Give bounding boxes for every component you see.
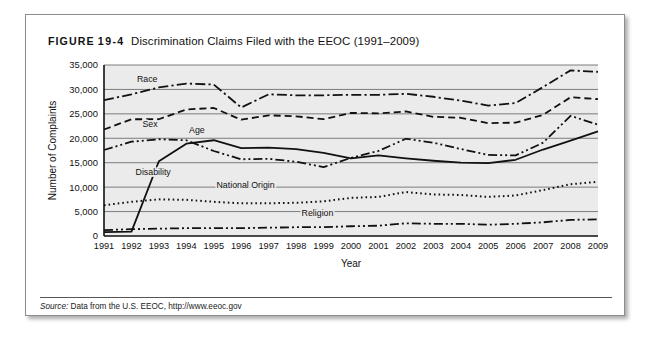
x-axis-tick-label: 2002 [396, 241, 416, 251]
x-axis-tick-label: 2006 [505, 241, 525, 251]
x-axis-tick-label: 2007 [533, 241, 553, 251]
x-axis-tick-label: 1994 [176, 241, 196, 251]
y-axis-tick-label: 25,000 [69, 108, 98, 119]
x-axis-tick-label: 1998 [286, 241, 306, 251]
x-axis-tick-label: 2004 [451, 241, 471, 251]
x-axis-tick-label: 1993 [149, 241, 169, 251]
x-axis-tick-label: 1991 [94, 241, 114, 251]
figure-caption: Discrimination Claims Filed with the EEO… [131, 35, 419, 47]
series-label-national-origin: National Origin [217, 180, 275, 190]
y-axis-tick-label: 5,000 [75, 206, 98, 217]
figure-plate: FIGURE 19-4 Discrimination Claims Filed … [25, 14, 625, 316]
series-label-race: Race [137, 74, 158, 84]
x-axis-tick-label: 2009 [588, 241, 608, 251]
series-label-age: Age [189, 125, 205, 135]
y-axis-tick-label: 10,000 [69, 182, 98, 193]
x-axis-tick-label: 1997 [258, 241, 278, 251]
y-axis-tick-label: 30,000 [69, 84, 98, 95]
y-axis-title: Number of Complaints [47, 101, 58, 200]
source-note: Source: Data from the U.S. EEOC, http://… [40, 302, 242, 311]
figure-label-number: 19-4 [98, 35, 125, 47]
x-axis-tick-label: 2001 [368, 241, 388, 251]
figure-label-word: FIGURE [48, 35, 95, 47]
y-axis-tick-label: 0 [93, 230, 98, 241]
x-axis-tick-label: 2000 [341, 241, 361, 251]
figure-title: FIGURE 19-4 Discrimination Claims Filed … [48, 35, 419, 47]
source-text: Data from the U.S. EEOC, http://www.eeoc… [68, 302, 241, 311]
x-axis-tick-label: 2008 [560, 241, 580, 251]
y-axis-tick-label: 15,000 [69, 157, 98, 168]
x-axis-tick-label: 1995 [204, 241, 224, 251]
plot-background [104, 65, 598, 236]
source-label: Source: [40, 302, 68, 311]
x-axis-title: Year [341, 258, 362, 269]
x-axis-tick-label: 2003 [423, 241, 443, 251]
series-label-religion: Religion [302, 208, 334, 218]
series-label-disability: Disability [136, 167, 172, 177]
y-axis-tick-label: 20,000 [69, 133, 98, 144]
source-divider [40, 297, 612, 298]
y-axis-tick-label: 35,000 [69, 59, 98, 70]
series-label-sex: Sex [142, 119, 158, 129]
x-axis-tick-label: 1999 [313, 241, 333, 251]
x-axis-tick-label: 1996 [231, 241, 251, 251]
x-axis-tick-label: 1992 [121, 241, 141, 251]
line-chart: 05,00010,00015,00020,00025,00030,00035,0… [42, 57, 608, 282]
x-axis-tick-label: 2005 [478, 241, 498, 251]
chart-canvas: 05,00010,00015,00020,00025,00030,00035,0… [42, 57, 608, 282]
